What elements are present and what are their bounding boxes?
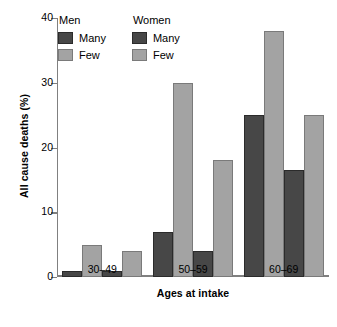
y-tick-label: 20 [27, 141, 53, 153]
legend-item-label: Few [153, 49, 174, 61]
legend-group-title: Women [132, 14, 180, 26]
bar [213, 160, 233, 277]
bar-group [244, 18, 324, 277]
y-tick-label: 40 [27, 11, 53, 23]
bar [153, 232, 173, 277]
bar [304, 115, 324, 277]
bar [244, 115, 264, 277]
x-tick-label: 50–59 [178, 263, 207, 275]
legend-block: MenManyFew [58, 14, 106, 63]
bar [173, 83, 193, 277]
legend-swatch-icon [132, 49, 147, 61]
y-tick-label: 10 [27, 205, 53, 217]
legend-item-label: Few [79, 49, 100, 61]
bar-chart: All cause deaths (%) 010203040 30–4950–5… [0, 0, 337, 327]
bar [122, 251, 142, 277]
x-tick-label: 30–49 [88, 263, 117, 275]
chart-legend: MenManyFewWomenManyFew [58, 14, 180, 63]
legend-item: Many [58, 29, 106, 46]
legend-item-label: Many [79, 32, 106, 44]
legend-item: Few [132, 46, 180, 63]
bar [62, 271, 82, 277]
bar [284, 170, 304, 277]
legend-swatch-icon [58, 32, 73, 44]
legend-item: Few [58, 46, 106, 63]
legend-item: Many [132, 29, 180, 46]
y-tick-label: 0 [27, 270, 53, 282]
y-tick-label: 30 [27, 76, 53, 88]
bar [264, 31, 284, 277]
legend-swatch-icon [58, 49, 73, 61]
x-tick-label: 60–69 [269, 263, 298, 275]
legend-group-title: Men [58, 14, 106, 26]
legend-item-label: Many [153, 32, 180, 44]
x-axis-title: Ages at intake [57, 287, 329, 299]
legend-block: WomenManyFew [132, 14, 180, 63]
legend-swatch-icon [132, 32, 147, 44]
